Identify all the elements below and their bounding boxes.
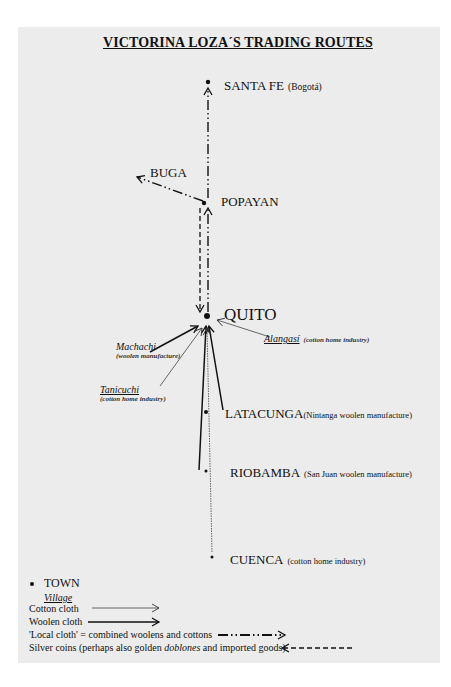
village-note: (woolen manufacture): [116, 352, 180, 360]
dot-riobamba: [205, 470, 208, 473]
village-alangasi: Alangasí (cotton home industry): [264, 328, 369, 346]
legend-silver-em: doblones: [164, 642, 200, 653]
town-popayan: POPAYAN: [221, 194, 279, 210]
town-cuenca: CUENCA (cotton home industry): [230, 550, 365, 568]
town-name: RIOBAMBA: [230, 465, 300, 480]
town-name: CUENCA: [230, 552, 283, 567]
legend-silver-post: and imported goods): [200, 642, 285, 653]
dot-latacunga: [204, 410, 208, 414]
dot-santa-fe: [206, 80, 210, 84]
town-buga: BUGA: [150, 165, 187, 181]
legend-silver-pre: Silver coins (perhaps also golden: [29, 642, 164, 653]
village-tanicuchi: Tanicuchi (cotton home industry): [100, 384, 166, 403]
town-latacunga: LATACUNGA(Nintanga woolen manufacture): [225, 404, 412, 422]
town-santa-fe: SANTA FE (Bogotá): [224, 76, 322, 94]
village-note: (cotton home industry): [100, 395, 166, 403]
village-machachi: Machachi (woolen manufacture): [116, 341, 180, 360]
town-note: (San Juan woolen manufacture): [304, 469, 412, 479]
legend-cotton: Cotton cloth: [29, 603, 79, 614]
legend-village: Village: [44, 592, 72, 603]
town-quito: QUITO: [224, 305, 277, 325]
map-title: VICTORINA LOZA´S TRADING ROUTES: [103, 35, 373, 51]
town-riobamba: RIOBAMBA (San Juan woolen manufacture): [230, 463, 412, 481]
legend-silver-coins: Silver coins (perhaps also golden doblon…: [29, 642, 286, 653]
local-cloth-routes: [137, 88, 208, 312]
dot-cuenca: [211, 556, 214, 559]
village-name: Tanicuchi: [100, 384, 166, 395]
dot-quito: [204, 313, 210, 319]
town-note: (cotton home industry): [287, 556, 365, 566]
town-note: (Bogotá): [288, 82, 322, 92]
town-note: (Nintanga woolen manufacture): [303, 410, 412, 420]
town-name: SANTA FE: [224, 78, 284, 93]
legend-town: TOWN: [44, 576, 80, 591]
village-note: (cotton home industry): [304, 336, 370, 344]
village-name: Alangasí: [264, 333, 300, 344]
legend-woolen: Woolen cloth: [29, 616, 82, 627]
village-name: Machachi: [116, 341, 180, 352]
legend-local-cloth: 'Local cloth' = combined woolens and cot…: [29, 629, 212, 640]
town-name: LATACUNGA: [225, 406, 303, 421]
